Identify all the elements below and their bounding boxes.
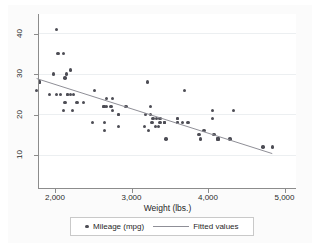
fitted-line-layer	[39, 14, 296, 189]
x-axis-line	[38, 188, 296, 189]
y-tick-40	[34, 34, 38, 35]
y-tick-30	[34, 74, 38, 75]
legend-entry-mileage: Mileage (mpg)	[85, 222, 144, 231]
legend-entry-fitted-values: Fitted values	[153, 222, 238, 231]
y-tick-label-30: 30	[15, 63, 24, 85]
x-tick-label-2000: 2,000	[35, 193, 75, 202]
x-tick-label-5000: 5,000	[265, 193, 305, 202]
chart-legend: Mileage (mpg) Fitted values	[70, 217, 254, 236]
y-tick-label-10: 10	[15, 144, 24, 166]
legend-marker-circle-icon	[85, 225, 89, 229]
y-tick-20	[34, 115, 38, 116]
fitted-values-line	[37, 79, 273, 154]
x-tick-label-4000: 4,000	[188, 193, 228, 202]
y-axis-line	[38, 14, 39, 189]
chart-figure: 10203040 2,0003,0004,0005,000 Weight (lb…	[0, 0, 320, 252]
x-tick-label-3000: 3,000	[112, 193, 152, 202]
legend-label-fitted-values: Fitted values	[193, 222, 238, 231]
y-tick-label-40: 40	[15, 22, 24, 44]
y-tick-label-20: 20	[15, 103, 24, 125]
legend-label-mileage: Mileage (mpg)	[93, 222, 144, 231]
y-tick-10	[34, 155, 38, 156]
x-axis-title: Weight (lbs.)	[39, 203, 296, 213]
legend-marker-line-icon	[153, 226, 189, 227]
